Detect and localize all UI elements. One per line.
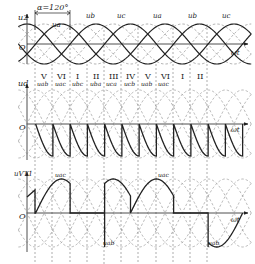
svg-text:uab: uab [37, 80, 48, 87]
output-voltage-wave [36, 124, 243, 156]
origin-label: O [19, 212, 26, 221]
origin-label: O [19, 43, 26, 52]
phase-label-ub: ub [86, 12, 96, 20]
phase-label-ub-2: ub [188, 12, 198, 20]
segment-voltage-labels: uab uac ubc uba uca ucb uab uac [37, 80, 169, 87]
phase-label-ua: ua [52, 21, 61, 29]
panel-thyristor-voltage: uVT1 O ωt uac uab uac uab [14, 170, 251, 252]
svg-text:II: II [197, 72, 203, 81]
svg-text:ubc: ubc [72, 80, 84, 87]
x-axis-label: ωt [231, 49, 240, 57]
svg-text:uab: uab [141, 80, 152, 87]
annotation-uab: uab [103, 239, 114, 246]
svg-text:I: I [181, 72, 184, 81]
origin-label: O [19, 123, 26, 132]
annotation-uac: uac [55, 171, 66, 178]
rectifier-waveform-diagram: α=120° u2 O ωt ua ub uc ua ub uc V VI I … [0, 0, 255, 264]
phase-label-ua-2: ua [153, 12, 162, 20]
panel-output-voltage: V VI I II III IV V VI I II uab uac ubc u… [18, 72, 251, 160]
y-axis-label: uVT1 [14, 170, 33, 178]
phase-label-uc: uc [117, 12, 126, 20]
svg-text:uac: uac [158, 80, 169, 87]
phase-label-uc-2: uc [222, 12, 231, 20]
svg-text:uca: uca [106, 80, 117, 87]
alpha-label: α=120° [37, 3, 68, 12]
svg-text:uba: uba [90, 80, 102, 87]
annotation-uac-2: uac [158, 171, 169, 178]
x-axis-label: ωt [231, 216, 240, 224]
y-axis-label: u2 [18, 13, 28, 22]
x-axis-label: ωt [231, 126, 240, 134]
y-axis-label: ud [18, 79, 28, 88]
annotation-uab-2: uab [208, 239, 219, 246]
svg-text:ucb: ucb [124, 80, 135, 87]
svg-text:uac: uac [55, 80, 66, 87]
